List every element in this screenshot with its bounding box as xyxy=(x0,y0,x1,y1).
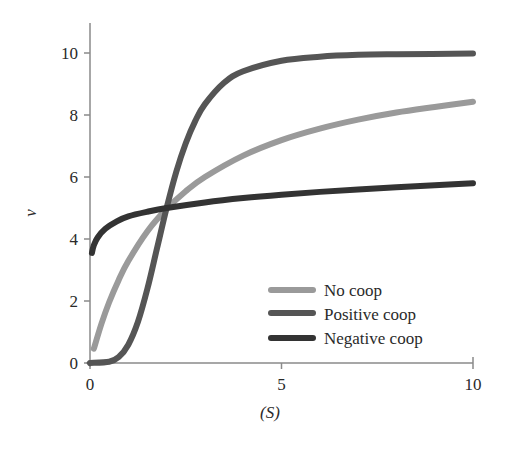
x-tick-label: 5 xyxy=(277,375,286,394)
y-ticks: 0246810 xyxy=(61,44,90,373)
legend-item-positive-coop: Positive coop xyxy=(271,305,416,324)
x-tick-label: 10 xyxy=(465,375,482,394)
y-tick-label: 2 xyxy=(70,292,79,311)
legend: No coop Positive coop Negative coop xyxy=(271,281,423,348)
legend-label-negative-coop: Negative coop xyxy=(324,329,423,348)
legend-label-no-coop: No coop xyxy=(324,281,382,300)
y-tick-label: 0 xyxy=(70,354,79,373)
negative-coop-curve xyxy=(92,183,473,253)
y-tick-label: 6 xyxy=(70,168,79,187)
x-axis-label: (S) xyxy=(260,403,280,422)
x-tick-label: 0 xyxy=(86,375,95,394)
chart: 0246810 0510 ν (S) No coop Positive coop… xyxy=(0,0,508,451)
y-axis-label: ν xyxy=(21,209,40,217)
y-tick-label: 10 xyxy=(61,44,78,63)
legend-item-negative-coop: Negative coop xyxy=(271,329,423,348)
y-tick-label: 8 xyxy=(70,106,79,125)
x-ticks: 0510 xyxy=(86,363,482,394)
legend-label-positive-coop: Positive coop xyxy=(324,305,416,324)
y-tick-label: 4 xyxy=(70,230,79,249)
legend-item-no-coop: No coop xyxy=(271,281,382,300)
